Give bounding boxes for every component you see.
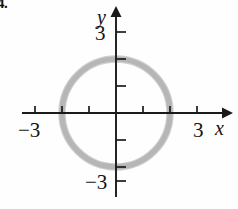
y-axis-tick-label-minus-3: −3 (85, 172, 107, 193)
y-axis-tick-label-3: 3 (95, 23, 106, 44)
x-axis-tick-label-3: 3 (193, 120, 204, 141)
x-axis-tick-label-minus-3: −3 (18, 120, 40, 141)
coordinate-plot (0, 0, 238, 209)
y-axis-arrow-icon (111, 6, 122, 17)
circle-graph-figure: 4. y 3 −3 3 x −3 (0, 0, 238, 209)
x-axis-label: x (215, 118, 224, 138)
